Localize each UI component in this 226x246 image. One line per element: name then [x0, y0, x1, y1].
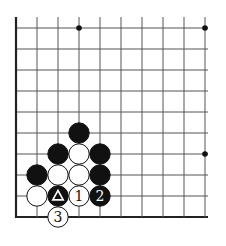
grid-lines: [16, 17, 208, 218]
star-point-icon: [202, 25, 208, 31]
white-stone-icon: [69, 144, 89, 164]
go-board-diagram: 123: [0, 0, 226, 246]
white-stone-icon: [27, 186, 47, 206]
move-number-label: 1: [75, 188, 84, 204]
black-stone-icon: [69, 123, 89, 143]
white-stone: [69, 144, 89, 164]
white-stone-move-3: 3: [48, 207, 68, 227]
black-stone-icon: [90, 165, 110, 185]
stones: 123: [27, 123, 110, 227]
black-stone-marked: [48, 186, 68, 206]
white-stone-icon: [69, 165, 89, 185]
white-stone: [27, 186, 47, 206]
black-stone-move-2: 2: [90, 186, 110, 206]
black-stone: [69, 123, 89, 143]
black-stone: [27, 165, 47, 185]
black-stone-icon: [48, 144, 68, 164]
white-stone: [69, 165, 89, 185]
move-number-label: 2: [96, 188, 105, 204]
black-stone: [90, 165, 110, 185]
black-stone: [48, 144, 68, 164]
black-stone-icon: [27, 165, 47, 185]
move-number-label: 3: [54, 209, 63, 225]
white-stone-move-1: 1: [69, 186, 89, 206]
black-stone-icon: [90, 144, 110, 164]
star-point-icon: [202, 151, 208, 157]
black-stone: [90, 144, 110, 164]
white-stone: [48, 165, 68, 185]
star-point-icon: [76, 25, 82, 31]
black-stone-icon: [48, 186, 68, 206]
white-stone-icon: [48, 165, 68, 185]
